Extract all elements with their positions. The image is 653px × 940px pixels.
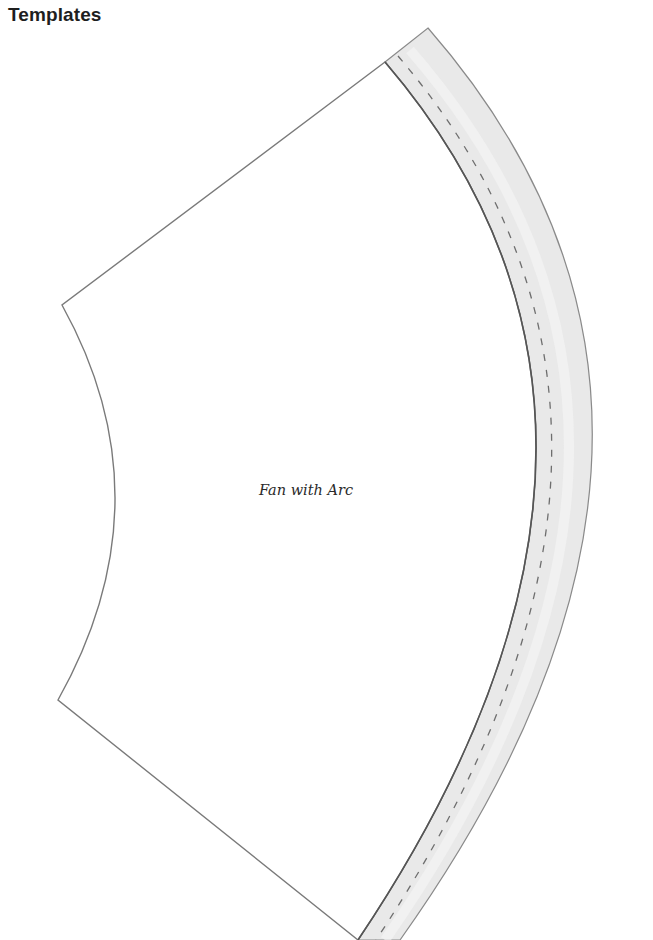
- fan-with-arc-template: [0, 0, 653, 940]
- template-label: Fan with Arc: [0, 482, 612, 498]
